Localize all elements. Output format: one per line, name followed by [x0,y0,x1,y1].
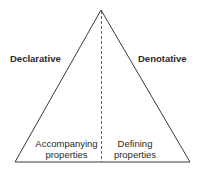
accompanying-line1: Accompanying [33,138,100,149]
denotative-label: Denotative [138,53,187,64]
declarative-label: Declarative [10,53,61,64]
accompanying-properties-label: Accompanying properties [33,138,100,160]
accompanying-line2: properties [33,149,100,160]
defining-line2: properties [106,149,164,160]
triangle-diagram [0,0,201,174]
defining-line1: Defining [106,138,164,149]
defining-properties-label: Defining properties [106,138,164,160]
